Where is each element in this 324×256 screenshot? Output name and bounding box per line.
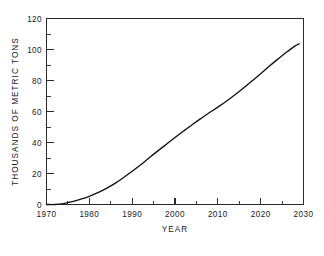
- x-tick-label-2000: 2000: [165, 210, 185, 219]
- y-axis-title: THOUSANDS OF METRIC TONS: [11, 37, 20, 186]
- line-chart: 120 100 80 60 40 20 0 1970 1980 1990 200…: [0, 0, 324, 256]
- x-tick-label-2030: 2030: [294, 210, 314, 219]
- x-tick-label-2010: 2010: [208, 210, 228, 219]
- chart-figure: 120 100 80 60 40 20 0 1970 1980 1990 200…: [0, 0, 324, 256]
- x-tick-label-1990: 1990: [122, 210, 142, 219]
- x-tick-label-1970: 1970: [37, 210, 57, 219]
- y-tick-label-40: 40: [32, 139, 42, 148]
- x-tick-label-2020: 2020: [251, 210, 271, 219]
- y-tick-label-0: 0: [37, 201, 42, 210]
- y-tick-label-120: 120: [27, 15, 42, 24]
- x-tick-label-1980: 1980: [79, 210, 99, 219]
- y-tick-label-20: 20: [32, 170, 42, 179]
- y-tick-label-60: 60: [32, 108, 42, 117]
- x-axis-title: YEAR: [162, 225, 189, 234]
- y-tick-label-80: 80: [32, 77, 42, 86]
- y-tick-label-100: 100: [27, 46, 42, 55]
